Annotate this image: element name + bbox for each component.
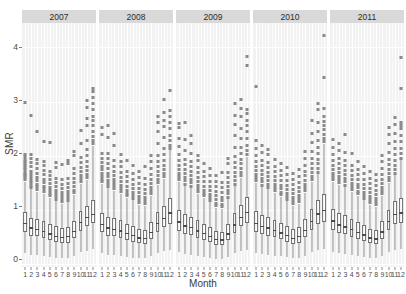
boxplot-outlier [150,192,153,195]
boxplot-outlier [144,202,147,205]
boxplot-outlier [184,176,187,179]
x-tick-label: 12 [320,271,328,278]
x-tick-label: 1 [254,271,258,278]
boxplot-outlier [162,147,165,150]
boxplot-outlier [168,127,171,130]
boxplot-outlier [107,167,110,170]
boxplot-outlier [101,168,104,171]
boxplot-box [100,213,104,233]
boxplot-outlier [316,108,319,111]
boxplot-outlier [36,167,39,170]
boxplot-outlier [119,160,122,163]
boxplot-outlier [101,133,104,136]
boxplot-median [233,224,237,225]
boxplot-outlier [67,186,70,189]
boxplot-outlier [30,161,33,164]
boxplot-outlier [285,166,288,169]
boxplot-outlier [221,205,224,208]
x-tick-mark [43,267,44,270]
boxplot-outlier [91,139,94,142]
boxplot-outlier [42,181,45,184]
boxplot-outlier [144,165,147,168]
boxplot-median [125,233,129,234]
boxplot-median [100,224,104,225]
boxplot-outlier [131,191,134,194]
boxplot-outlier [344,169,347,172]
boxplot-median [131,235,135,236]
x-tick-mark [216,267,217,270]
boxplot [321,23,327,267]
boxplot-outlier [178,178,181,181]
boxplot-outlier [215,190,218,193]
boxplot-box [156,212,160,232]
boxplot-outlier [125,185,128,188]
boxplot-outlier [221,196,224,199]
boxplot-outlier [350,174,353,177]
x-tick-label: 5 [48,271,52,278]
boxplot-outlier [67,182,70,185]
boxplot-outlier [279,162,282,165]
boxplot-outlier [196,166,199,169]
boxplot-outlier [190,170,193,173]
boxplot-outlier [113,132,116,135]
boxplot-outlier [107,152,110,155]
boxplot-outlier [107,185,110,188]
x-tick-label: 8 [66,271,70,278]
boxplot-outlier [67,177,70,180]
boxplot-outlier [369,191,372,194]
boxplot-outlier [233,175,236,178]
boxplot-outlier [332,178,335,181]
boxplot-outlier [255,147,258,150]
boxplot-outlier [221,203,224,206]
boxplot-outlier [227,157,230,160]
boxplot-box [106,217,110,235]
boxplot-outlier [332,153,335,156]
boxplot-outlier [119,184,122,187]
boxplot-outlier [138,191,141,194]
boxplot-outlier [292,196,295,199]
boxplot-outlier [125,194,128,197]
x-tick-mark [293,267,294,270]
boxplot-outlier [61,197,64,200]
boxplot-outlier [42,164,45,167]
boxplot-box [245,197,249,224]
boxplot-outlier [79,129,82,132]
facet-panel: 2010123456789101112 [253,10,327,284]
x-tick-label: 8 [297,271,301,278]
boxplot-outlier [48,192,51,195]
boxplot-outlier [101,180,104,183]
boxplot-outlier [131,187,134,190]
chart-root: SMR 01234 200712345678910111220081234567… [0,0,406,294]
boxplot-outlier [113,174,116,177]
boxplot-outlier [393,159,396,162]
boxplot-box [285,226,289,241]
boxplot-outlier [168,144,171,147]
boxplot-outlier [285,192,288,195]
facet-strip-label: 2010 [253,10,327,23]
boxplot-outlier [79,166,82,169]
boxplot-outlier [273,175,276,178]
boxplot-whisker [92,146,93,249]
boxplot-outlier [79,142,82,145]
boxplot-outlier [375,179,378,182]
boxplot-outlier [156,115,159,118]
boxplot-outlier [73,185,76,188]
boxplot-outlier [48,189,51,192]
facet-panel: 2011123456789101112 [330,10,404,284]
boxplot-outlier [239,98,242,101]
boxplot-outlier [273,158,276,161]
boxplot-outlier [267,175,270,178]
boxplot-outlier [156,170,159,173]
boxplot-outlier [30,153,33,156]
boxplot-outlier [344,184,347,187]
x-tick-label: 5 [125,271,129,278]
boxplot-outlier [30,173,33,176]
x-tick-label: 3 [266,271,270,278]
x-tick-label: 6 [208,271,212,278]
x-tick-mark [280,267,281,270]
boxplot-outlier [399,56,402,59]
boxplot-outlier [310,162,313,165]
boxplot-outlier [255,179,258,182]
boxplot-outlier [54,181,57,184]
boxplot-outlier [369,198,372,201]
